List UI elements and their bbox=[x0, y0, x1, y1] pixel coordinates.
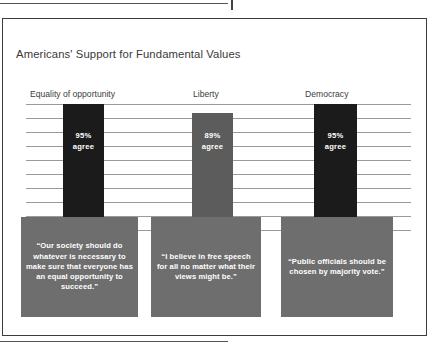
bar-value-percent: 89% bbox=[192, 131, 233, 142]
bar-value-percent: 95% bbox=[63, 131, 104, 142]
plot-area: 95% agree 89% agree 95% agree bbox=[26, 104, 411, 234]
category-label-democracy: Democracy bbox=[305, 89, 348, 99]
quote-box-democracy: “Public officials should be chosen by ma… bbox=[281, 217, 393, 317]
bar-value-word: agree bbox=[314, 142, 357, 153]
category-label-equality-of-opportunity: Equality of opportunity bbox=[30, 89, 115, 99]
quote-box-liberty: “I believe in free speech for all no mat… bbox=[151, 217, 261, 317]
bar-value-word: agree bbox=[192, 142, 233, 153]
bar-democracy[interactable]: 95% agree bbox=[314, 104, 357, 234]
figure-title: Americans' Support for Fundamental Value… bbox=[16, 48, 241, 60]
bar-value-label-liberty: 89% agree bbox=[192, 131, 233, 152]
category-label-liberty: Liberty bbox=[193, 89, 219, 99]
figure-frame: Americans' Support for Fundamental Value… bbox=[2, 18, 427, 336]
quote-text: “Public officials should be chosen by ma… bbox=[285, 257, 389, 278]
page-rule-top bbox=[0, 3, 228, 4]
bar-value-label-equality-of-opportunity: 95% agree bbox=[63, 131, 104, 152]
bar-liberty[interactable]: 89% agree bbox=[192, 113, 233, 234]
bar-value-label-democracy: 95% agree bbox=[314, 131, 357, 152]
quote-text: “I believe in free speech for all no mat… bbox=[155, 252, 257, 283]
page-vertical-rule bbox=[231, 0, 233, 10]
page-rule-bottom bbox=[0, 341, 228, 342]
bar-equality-of-opportunity[interactable]: 95% agree bbox=[63, 104, 104, 234]
quote-box-equality-of-opportunity: “Our society should do whatever is neces… bbox=[21, 217, 138, 317]
bar-value-word: agree bbox=[63, 142, 104, 153]
bar-value-percent: 95% bbox=[314, 131, 357, 142]
quote-text: “Our society should do whatever is neces… bbox=[25, 241, 134, 292]
